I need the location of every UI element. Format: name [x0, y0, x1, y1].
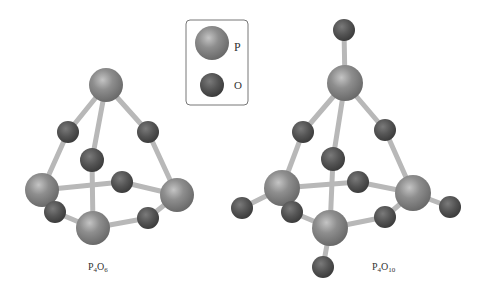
molecule-label-p4o6: P4O6 — [88, 261, 108, 274]
molecule-label-p4o10: P4O10 — [372, 261, 396, 274]
oxygen-atom — [281, 201, 303, 223]
legend: P O — [186, 20, 248, 105]
molecule-p4o6: P4O6 — [25, 68, 194, 274]
oxygen-atom — [312, 256, 334, 278]
oxygen-atom — [44, 201, 66, 223]
oxygen-atom — [80, 148, 104, 172]
oxygen-atom — [57, 121, 79, 143]
oxygen-atom — [137, 207, 159, 229]
oxygen-atom — [321, 147, 345, 171]
oxygen-atom — [374, 206, 396, 228]
molecule-p4o10: P4O10 — [231, 19, 461, 278]
legend-label-p: P — [234, 40, 241, 54]
phosphorus-atom — [312, 210, 348, 246]
diagram-canvas: P O P4 — [0, 0, 488, 298]
oxygen-atom — [374, 119, 396, 141]
phosphorus-atom — [160, 178, 194, 212]
legend-label-o: O — [234, 79, 242, 91]
oxygen-atom — [111, 171, 133, 193]
oxygen-atom — [292, 121, 314, 143]
phosphorus-atom — [264, 170, 300, 206]
phosphorus-atom — [327, 65, 363, 101]
oxygen-atom — [439, 196, 461, 218]
phosphorus-atom-icon — [195, 26, 229, 60]
oxygen-atom — [137, 121, 159, 143]
oxygen-atom — [347, 171, 369, 193]
phosphorus-atom — [76, 211, 110, 245]
oxygen-atom — [231, 197, 253, 219]
oxygen-atom — [333, 19, 355, 41]
phosphorus-atom — [89, 68, 123, 102]
phosphorus-atom — [395, 175, 431, 211]
oxygen-atom-icon — [200, 73, 224, 97]
